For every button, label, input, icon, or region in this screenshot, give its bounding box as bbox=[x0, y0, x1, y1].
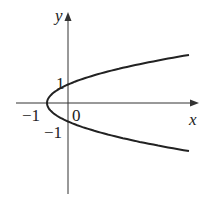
x-axis-arrow-icon bbox=[190, 100, 199, 107]
parabola-figure: y x 0 −1 1 −1 bbox=[0, 0, 208, 204]
y-tick-pos-one: 1 bbox=[56, 75, 65, 92]
y-tick-neg-one: −1 bbox=[44, 124, 62, 141]
graph-canvas bbox=[0, 0, 208, 204]
x-tick-neg-one: −1 bbox=[22, 107, 40, 124]
origin-label: 0 bbox=[72, 107, 81, 124]
y-axis-label: y bbox=[55, 7, 63, 24]
y-axis-arrow-icon bbox=[65, 12, 72, 21]
x-axis-label: x bbox=[189, 111, 197, 128]
